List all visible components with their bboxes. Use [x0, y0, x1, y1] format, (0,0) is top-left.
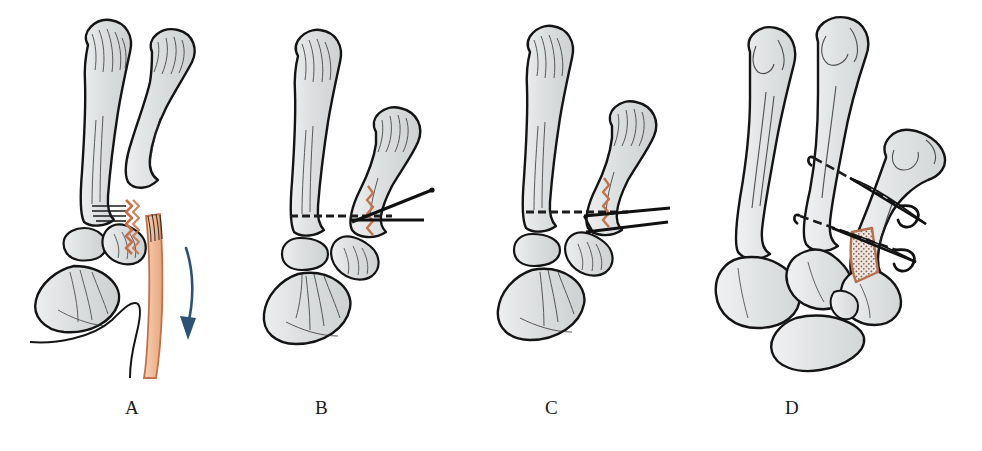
panel-c	[468, 0, 708, 451]
panel-label-c: C	[545, 398, 558, 417]
panel-a	[0, 0, 240, 451]
panel-label-d: D	[785, 398, 799, 417]
panel-d	[700, 0, 982, 451]
metacarpal-shaft-left	[81, 20, 131, 226]
panel-label-b: B	[315, 398, 328, 417]
metacarpal-shaft-left	[291, 30, 341, 236]
metacarpal-shaft-thumb	[126, 29, 195, 188]
tendon-graft-strip	[144, 214, 162, 378]
carpal-bones	[498, 232, 613, 340]
metacarpal-dorsal-left	[736, 27, 795, 259]
displacement-arrow	[180, 248, 196, 340]
panel-label-a: A	[125, 398, 139, 417]
panel-b	[228, 0, 468, 451]
metacarpal-dorsal-middle	[804, 17, 868, 251]
metacarpal-shaft-left	[523, 26, 573, 232]
carpal-bones	[264, 236, 379, 344]
figure-canvas: A B C D	[0, 0, 982, 451]
